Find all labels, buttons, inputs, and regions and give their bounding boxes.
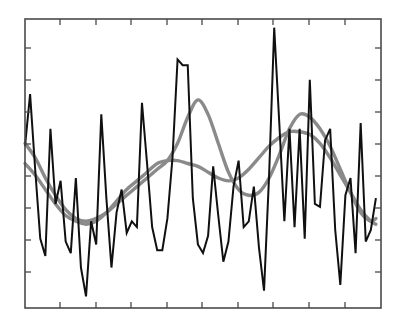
figure-background bbox=[0, 0, 405, 329]
line-chart-plot bbox=[0, 0, 405, 329]
chart-figure bbox=[0, 0, 405, 329]
